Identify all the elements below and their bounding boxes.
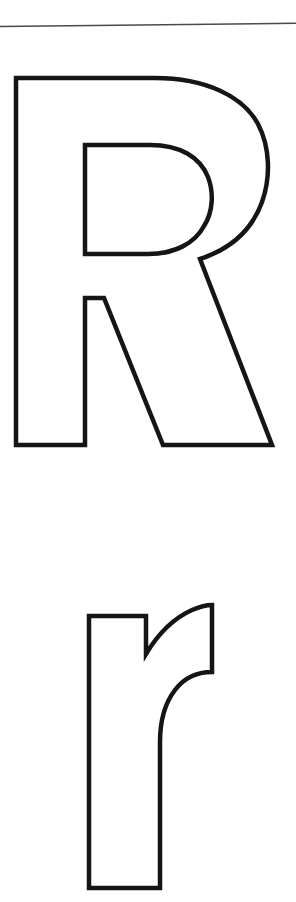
page-title: Letter R tracing worksheet page	[0, 0, 1, 1]
lowercase-r-glyph	[0, 0, 296, 902]
uppercase-r-glyph	[0, 0, 296, 902]
horizontal-rule	[0, 18, 296, 32]
worksheet-page: Letter R tracing worksheet page	[0, 0, 296, 902]
